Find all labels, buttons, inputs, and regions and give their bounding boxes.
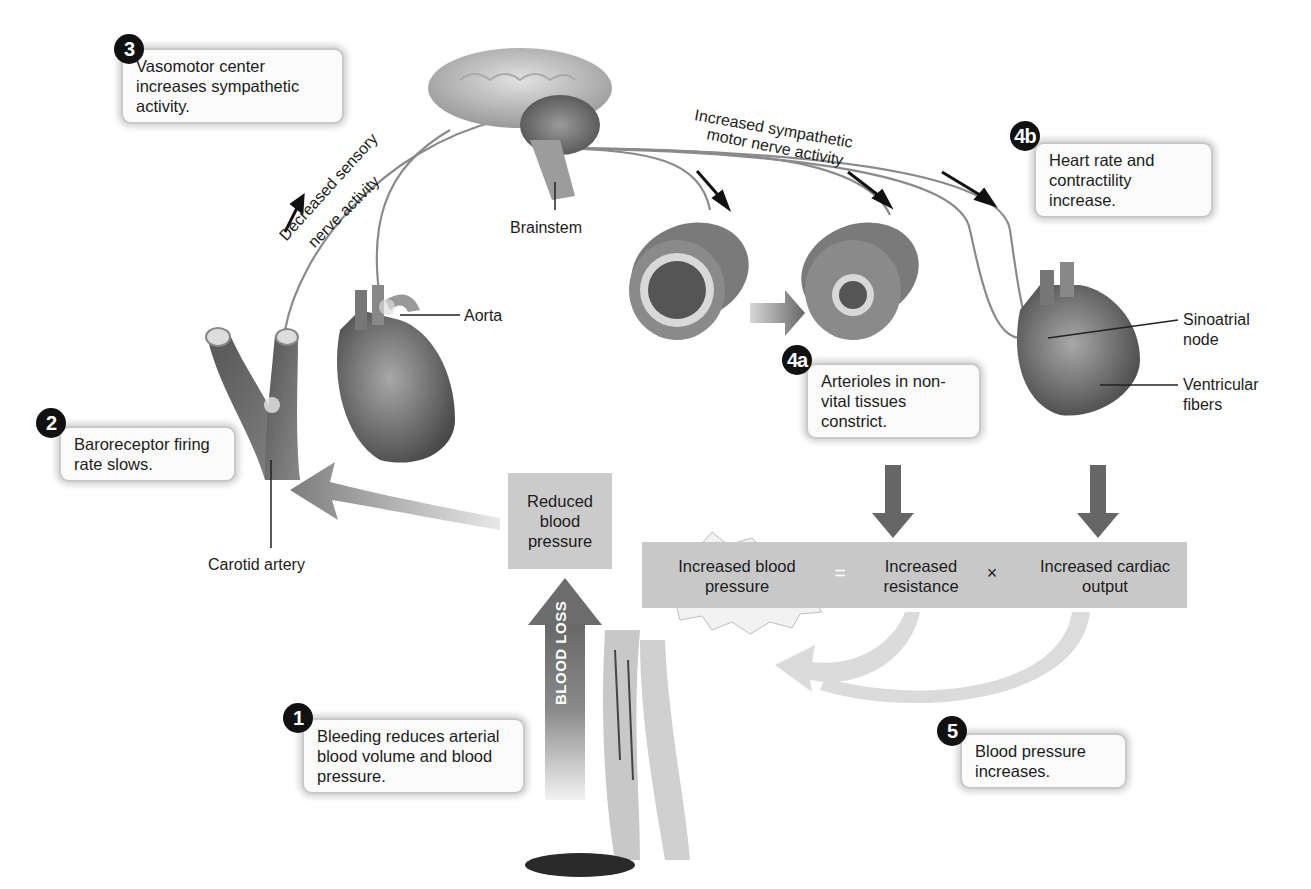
step-5-text: Blood pressure increases.	[975, 742, 1086, 780]
equation-result: Increased blood pressure	[662, 556, 812, 596]
arteriole-constricted-illustration	[787, 206, 933, 340]
step-1-text: Bleeding reduces arterial blood volume a…	[317, 727, 500, 785]
sinoatrial-node-label: Sinoatrial node	[1183, 310, 1273, 350]
step-1-callout: Bleeding reduces arterial blood volume a…	[302, 718, 525, 794]
step-4a-callout: Arterioles in non-vital tissues constric…	[806, 363, 981, 439]
step-2-callout: Baroreceptor firing rate slows.	[59, 426, 236, 482]
step-4a-text: Arterioles in non-vital tissues constric…	[821, 372, 946, 430]
step-4b-text: Heart rate and contractility increase.	[1049, 151, 1154, 209]
ventricular-fibers-text: Ventricular fibers	[1183, 376, 1259, 413]
equation-resistance: Increased resistance	[865, 556, 977, 596]
brain-illustration	[428, 48, 612, 200]
reduced-bp-label: Reduced blood pressure	[515, 491, 605, 551]
arteriole-dilated-illustration	[617, 206, 763, 340]
ventricular-fibers-label: Ventricular fibers	[1183, 375, 1273, 415]
step-1-badge: 1	[283, 703, 313, 733]
heart-illustration-left	[337, 285, 455, 463]
brainstem-label: Brainstem	[510, 218, 582, 238]
step-4b-badge: 4b	[1010, 121, 1040, 151]
step-5-callout: Blood pressure increases.	[960, 733, 1127, 789]
step-2-text: Baroreceptor firing rate slows.	[74, 435, 210, 473]
blood-loss-label: BLOOD LOSS	[552, 601, 569, 705]
feedback-arrow-left	[290, 462, 500, 530]
step-5-badge: 5	[937, 716, 967, 746]
equation-cardiac-output: Increased cardiac output	[1030, 556, 1180, 596]
nerve-arrows	[285, 171, 994, 232]
step-4b-callout: Heart rate and contractility increase.	[1034, 142, 1213, 218]
sinoatrial-node-text: Sinoatrial node	[1183, 311, 1250, 348]
step-2-badge: 2	[36, 408, 66, 438]
step-3-callout: Vasomotor center increases sympathetic a…	[121, 48, 344, 124]
aorta-label: Aorta	[464, 306, 502, 326]
carotid-artery-label: Carotid artery	[208, 555, 305, 575]
heart-illustration-right	[1017, 262, 1140, 416]
times-sign: ×	[982, 563, 1002, 583]
reduced-bp-box: Reduced blood pressure	[508, 473, 612, 569]
step-3-badge: 3	[114, 34, 144, 64]
effect-arrows	[872, 465, 1119, 538]
step-3-text: Vasomotor center increases sympathetic a…	[136, 57, 299, 115]
constriction-arrow	[750, 290, 805, 336]
feedback-arrows-bottom	[775, 612, 1090, 703]
equals-sign: =	[830, 563, 850, 583]
step-4a-badge: 4a	[782, 345, 812, 375]
